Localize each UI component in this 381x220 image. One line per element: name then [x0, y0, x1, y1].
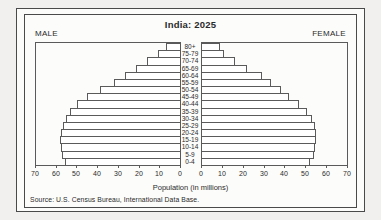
axis-tick-mark — [326, 165, 327, 168]
axis-tick-label: 0 — [191, 170, 211, 177]
axis-tick-label: 40 — [274, 170, 294, 177]
axis-tick-label: 40 — [87, 170, 107, 177]
figure-outer-frame: India: 2025 MALE FEMALE 80+75-7970-7465-… — [16, 8, 365, 212]
axis-tick-mark — [222, 165, 223, 168]
axis-tick-mark — [97, 165, 98, 168]
figure-inner-frame: India: 2025 MALE FEMALE 80+75-7970-7465-… — [24, 14, 357, 208]
axis-tick-label: 10 — [149, 170, 169, 177]
axis-tick-mark — [243, 165, 244, 168]
axis-tick-mark — [56, 165, 57, 168]
axis-tick-mark — [180, 165, 181, 168]
axis-tick-mark — [159, 165, 160, 168]
axis-tick-mark — [264, 165, 265, 168]
age-label: 0-4 — [180, 157, 200, 165]
axis-tick-label: 20 — [233, 170, 253, 177]
chart-title: India: 2025 — [25, 19, 356, 30]
axis-tick-mark — [201, 165, 202, 168]
axis-tick-label: 60 — [316, 170, 336, 177]
axis-tick-label: 10 — [212, 170, 232, 177]
axis-tick-label: 30 — [254, 170, 274, 177]
axis-tick-label: 50 — [295, 170, 315, 177]
screenshot: { "figure": { "title": "India: 2025", "m… — [0, 0, 381, 220]
axis-tick-label: 70 — [25, 170, 45, 177]
male-axis-title: MALE — [35, 29, 58, 38]
source-note: Source: U.S. Census Bureau, Internationa… — [30, 196, 199, 203]
axis-tick-mark — [76, 165, 77, 168]
axis-tick-label: 70 — [337, 170, 357, 177]
axis-tick-mark — [305, 165, 306, 168]
axis-tick-label: 20 — [129, 170, 149, 177]
male-pyramid-panel — [35, 42, 181, 166]
axis-tick-mark — [347, 165, 348, 168]
axis-tick-mark — [284, 165, 285, 168]
axis-tick-mark — [35, 165, 36, 168]
female-axis-title: FEMALE — [312, 29, 346, 38]
axis-tick-label: 50 — [66, 170, 86, 177]
female-pyramid-panel — [201, 42, 348, 166]
axis-tick-label: 60 — [46, 170, 66, 177]
x-axis-label: Population (in millions) — [25, 183, 356, 192]
axis-tick-label: 0 — [170, 170, 190, 177]
female-bar-0-4 — [202, 158, 310, 166]
axis-tick-mark — [139, 165, 140, 168]
axis-tick-mark — [118, 165, 119, 168]
age-group-labels: 80+75-7970-7465-6960-6455-5950-5445-4940… — [180, 42, 200, 164]
male-bar-0-4 — [65, 158, 180, 166]
axis-tick-label: 30 — [108, 170, 128, 177]
